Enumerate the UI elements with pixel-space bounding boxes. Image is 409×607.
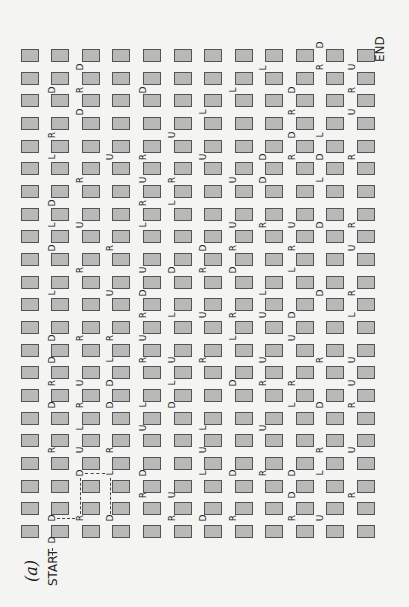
direction-letter: R bbox=[288, 380, 297, 386]
grid-cell bbox=[112, 298, 130, 311]
grid-cell bbox=[174, 298, 192, 311]
direction-letter: D bbox=[48, 200, 57, 207]
grid-cell bbox=[326, 253, 344, 266]
grid-cell bbox=[326, 162, 344, 175]
direction-letter: R bbox=[348, 87, 357, 93]
direction-letter: U bbox=[139, 335, 148, 342]
grid-cell bbox=[204, 366, 222, 379]
grid-cell bbox=[82, 502, 100, 515]
direction-letter: D bbox=[48, 335, 57, 342]
direction-letter: R bbox=[139, 200, 148, 206]
direction-letter: D bbox=[259, 177, 268, 184]
grid-cell bbox=[235, 321, 253, 334]
grid-cell bbox=[357, 276, 375, 289]
grid-cell bbox=[265, 457, 283, 470]
grid-cell bbox=[357, 208, 375, 221]
direction-letter: R bbox=[316, 357, 325, 363]
grid-cell bbox=[112, 525, 130, 538]
grid-cell bbox=[51, 344, 69, 357]
grid-cell bbox=[112, 162, 130, 175]
grid-cell bbox=[21, 230, 39, 243]
direction-letter: L bbox=[168, 200, 177, 205]
direction-letter: R bbox=[229, 245, 238, 251]
grid-cell bbox=[235, 117, 253, 130]
grid-cell bbox=[296, 321, 314, 334]
grid-cell bbox=[174, 457, 192, 470]
grid-cell bbox=[21, 276, 39, 289]
grid-cell bbox=[296, 344, 314, 357]
grid-cell bbox=[174, 72, 192, 85]
grid-cell bbox=[357, 94, 375, 107]
grid-cell bbox=[235, 525, 253, 538]
grid-cell bbox=[235, 94, 253, 107]
grid-cell bbox=[296, 366, 314, 379]
grid-cell bbox=[204, 480, 222, 493]
grid-cell bbox=[21, 253, 39, 266]
grid-cell bbox=[326, 140, 344, 153]
grid-cell bbox=[326, 480, 344, 493]
grid-cell bbox=[143, 185, 161, 198]
grid-cell bbox=[174, 185, 192, 198]
direction-letter: D bbox=[229, 267, 238, 274]
grid-cell bbox=[143, 457, 161, 470]
grid-cell bbox=[143, 49, 161, 62]
direction-letter: L bbox=[199, 470, 208, 475]
grid-cell bbox=[112, 276, 130, 289]
grid-cell bbox=[204, 117, 222, 130]
grid-cell bbox=[21, 434, 39, 447]
grid-cell bbox=[265, 230, 283, 243]
direction-letter: R bbox=[48, 132, 57, 138]
direction-letter: L bbox=[229, 87, 238, 92]
grid-cell bbox=[296, 162, 314, 175]
direction-letter: U bbox=[348, 357, 357, 364]
direction-letter: D bbox=[316, 290, 325, 297]
direction-letter: R bbox=[229, 515, 238, 521]
grid-cell bbox=[82, 389, 100, 402]
direction-letter: R bbox=[348, 154, 357, 160]
grid-cell bbox=[143, 502, 161, 515]
grid-cell bbox=[235, 457, 253, 470]
grid-cell bbox=[204, 162, 222, 175]
grid-cell bbox=[235, 208, 253, 221]
grid-cell bbox=[51, 94, 69, 107]
grid-cell bbox=[51, 208, 69, 221]
direction-letter: U bbox=[259, 357, 268, 364]
grid-cell bbox=[204, 49, 222, 62]
direction-letter: D bbox=[139, 87, 148, 94]
grid-cell bbox=[235, 140, 253, 153]
direction-letter: D bbox=[229, 470, 238, 477]
grid-cell bbox=[235, 230, 253, 243]
direction-letter: R bbox=[288, 245, 297, 251]
grid-cell bbox=[326, 72, 344, 85]
grid-cell bbox=[235, 276, 253, 289]
grid-cell bbox=[204, 140, 222, 153]
grid-cell bbox=[296, 412, 314, 425]
grid-cell bbox=[112, 321, 130, 334]
grid-cell bbox=[82, 480, 100, 493]
grid-cell bbox=[265, 162, 283, 175]
grid-cell bbox=[143, 276, 161, 289]
direction-letter: L bbox=[316, 132, 325, 137]
grid-cell bbox=[235, 434, 253, 447]
grid-cell bbox=[82, 117, 100, 130]
direction-letter: L bbox=[259, 65, 268, 70]
direction-letter: R bbox=[139, 312, 148, 318]
grid-cell bbox=[204, 94, 222, 107]
grid-cell bbox=[265, 208, 283, 221]
grid-cell bbox=[235, 162, 253, 175]
direction-letter: R bbox=[229, 312, 238, 318]
grid-cell bbox=[296, 94, 314, 107]
grid-cell bbox=[357, 502, 375, 515]
direction-letter: R bbox=[106, 335, 115, 341]
grid-cell bbox=[21, 412, 39, 425]
grid-cell bbox=[51, 117, 69, 130]
grid-cell bbox=[204, 457, 222, 470]
direction-letter: L bbox=[106, 470, 115, 475]
grid-cell bbox=[235, 389, 253, 402]
grid-cell bbox=[82, 298, 100, 311]
grid-cell bbox=[51, 276, 69, 289]
grid-cell bbox=[51, 434, 69, 447]
grid-cell bbox=[235, 253, 253, 266]
direction-letter: U bbox=[168, 132, 177, 139]
direction-letter: D bbox=[288, 132, 297, 139]
